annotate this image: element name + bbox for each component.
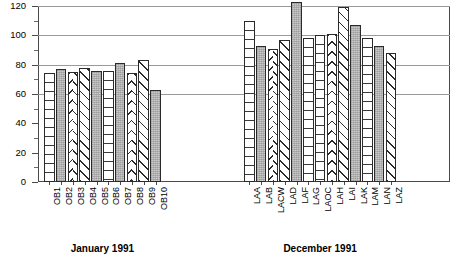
plot-area	[38, 6, 450, 182]
x-tick-label: OB10	[160, 187, 169, 210]
x-tick	[273, 182, 274, 185]
x-tick-label: LAM	[371, 187, 380, 206]
x-tick-label: LACW	[277, 187, 286, 213]
x-tick	[249, 182, 250, 185]
bar	[303, 38, 314, 182]
y-tick-label: 60	[15, 89, 26, 99]
bar-chart: 020406080100120 OB1OB2OB3OB4OB5OB6OB7OB8…	[0, 0, 464, 266]
x-tick-label: OB3	[77, 187, 86, 205]
bar	[350, 25, 361, 182]
y-tick-label: 20	[15, 148, 26, 158]
x-tick-label: LAG	[312, 187, 321, 205]
bar	[103, 71, 114, 182]
gridline	[38, 6, 450, 7]
x-tick	[308, 182, 309, 185]
bar	[268, 49, 279, 182]
bar	[68, 72, 79, 182]
bar	[115, 63, 126, 182]
x-tick	[297, 182, 298, 185]
bar	[56, 69, 67, 182]
bar	[91, 71, 102, 182]
x-tick-label: OB7	[124, 187, 133, 205]
x-tick-label: LAF	[301, 187, 310, 204]
y-tick-label: 120	[10, 1, 26, 11]
x-tick-label: LAD	[289, 187, 298, 205]
y-tick-label: 100	[10, 30, 26, 40]
x-tick	[97, 182, 98, 185]
x-tick	[379, 182, 380, 185]
x-tick-label: LAK	[360, 187, 369, 204]
x-tick-label: LAOC	[324, 187, 333, 212]
x-tick-label: OB4	[89, 187, 98, 205]
x-tick	[332, 182, 333, 185]
bar	[79, 68, 90, 182]
bar	[315, 35, 326, 182]
y-tick-label: 40	[15, 118, 26, 128]
x-tick	[391, 182, 392, 185]
x-tick	[344, 182, 345, 185]
x-tick	[356, 182, 357, 185]
bar	[362, 38, 373, 182]
y-tick-label: 0	[21, 177, 26, 187]
x-tick-label: LAN	[383, 187, 392, 205]
x-tick	[367, 182, 368, 185]
x-tick-label: LAZ	[395, 187, 404, 204]
x-tick	[120, 182, 121, 185]
group-caption-2: December 1991	[260, 243, 380, 254]
x-tick-label: LAA	[253, 187, 262, 204]
y-tick-major	[32, 182, 38, 183]
bar	[386, 53, 397, 182]
y-axis: 020406080100120	[0, 0, 36, 190]
x-tick-label: LAB	[265, 187, 274, 204]
bar	[138, 60, 149, 182]
x-tick	[144, 182, 145, 185]
bar	[44, 73, 55, 182]
x-tick-label: OB5	[101, 187, 110, 205]
bar	[150, 90, 161, 182]
bar	[244, 21, 255, 182]
x-tick	[132, 182, 133, 185]
x-tick-label: LAH	[336, 187, 345, 205]
x-tick-label: OB6	[112, 187, 121, 205]
x-tick	[85, 182, 86, 185]
x-tick-label: OB8	[136, 187, 145, 205]
group-caption-1: January 1991	[42, 243, 162, 254]
x-tick-label: OB9	[148, 187, 157, 205]
x-tick	[61, 182, 62, 185]
bar	[327, 34, 338, 182]
y-tick-label: 80	[15, 60, 26, 70]
x-tick	[156, 182, 157, 185]
x-tick	[73, 182, 74, 185]
bar	[279, 40, 290, 182]
x-tick-label: OB2	[65, 187, 74, 205]
x-tick-label: LAI	[348, 187, 357, 201]
x-tick	[108, 182, 109, 185]
bar	[127, 73, 138, 182]
x-tick	[285, 182, 286, 185]
x-tick-label: OB1	[53, 187, 62, 205]
x-tick	[261, 182, 262, 185]
x-tick	[49, 182, 50, 185]
bar	[374, 46, 385, 182]
bar	[256, 46, 267, 182]
x-tick	[320, 182, 321, 185]
bar	[291, 2, 302, 182]
bar	[338, 7, 349, 182]
